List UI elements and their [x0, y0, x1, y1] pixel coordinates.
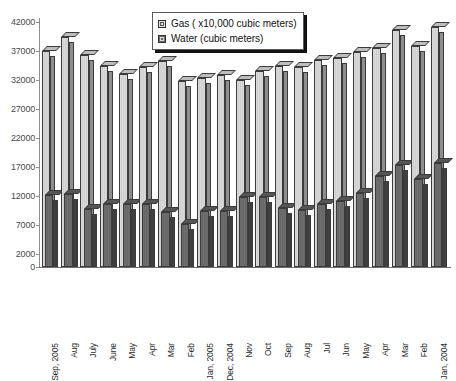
- y-axis-tick: 42000: [11, 17, 40, 27]
- water-bar: [414, 179, 423, 267]
- x-axis-label: Dec, 2004: [225, 343, 235, 381]
- y-axis-tick: 37000: [11, 46, 40, 56]
- bar-front-face: [220, 211, 229, 268]
- bar-front-face: [103, 204, 112, 267]
- bar-front-face: [356, 193, 365, 267]
- water-bar: [375, 176, 384, 267]
- water-bar: [317, 204, 326, 267]
- water-bar: [220, 211, 229, 268]
- water-bar: [336, 201, 345, 267]
- bar-side-face: [384, 181, 389, 267]
- bar-front-face: [395, 165, 404, 267]
- x-axis-label: Mar: [400, 343, 410, 357]
- bar-top-face: [236, 75, 255, 80]
- bar-front-face: [45, 195, 54, 267]
- bar-top-face: [119, 69, 138, 74]
- y-axis-tick-label: 2000: [16, 249, 35, 259]
- bar-top-face: [158, 56, 177, 61]
- bar-side-face: [150, 209, 155, 267]
- chart-legend: Gas ( x10,000 cubic meters) Water (cubic…: [152, 12, 304, 50]
- bar-top-face: [80, 50, 99, 55]
- bar-top-face: [42, 46, 61, 51]
- plot-area: [40, 14, 450, 267]
- bar-top-face: [217, 70, 236, 75]
- y-axis-tick-label: 12000: [11, 191, 35, 201]
- bar-front-face: [84, 209, 93, 267]
- x-axis-label: Feb: [186, 343, 196, 357]
- y-axis-tick-label: 27000: [11, 104, 35, 114]
- y-axis-tick: 12000: [11, 191, 40, 201]
- bar-front-face: [336, 201, 345, 267]
- legend-item-water: Water (cubic meters): [158, 31, 297, 46]
- water-bar: [142, 204, 151, 267]
- legend-swatch-gas-icon: [158, 20, 166, 28]
- bar-side-face: [403, 170, 408, 267]
- y-axis-tick-label: 17000: [11, 162, 35, 172]
- bar-top-face: [197, 73, 216, 78]
- bar-front-face: [298, 210, 307, 267]
- bar-side-face: [267, 202, 272, 267]
- legend-label-water: Water (cubic meters): [171, 33, 263, 44]
- water-bar: [434, 163, 443, 267]
- bar-front-face: [64, 194, 73, 267]
- bar-top-face: [353, 47, 372, 52]
- bar-side-face: [345, 206, 350, 267]
- x-axis-label: Nov: [244, 343, 254, 358]
- x-axis-label: May: [127, 343, 137, 359]
- bar-side-face: [53, 200, 58, 267]
- bar-top-face: [431, 22, 450, 27]
- bar-front-face: [375, 176, 384, 267]
- y-axis-tick: 7000: [16, 220, 40, 230]
- bar-front-face: [123, 204, 132, 267]
- bar-front-face: [181, 224, 190, 267]
- x-axis-label: Sep: [283, 343, 293, 358]
- x-axis-label: Jul: [322, 343, 332, 354]
- x-axis-label: Jan, 2005: [205, 343, 215, 379]
- bar-top-face: [100, 61, 119, 66]
- water-bar: [259, 197, 268, 267]
- bar-top-face: [314, 55, 333, 60]
- bar-top-face: [411, 41, 430, 46]
- bar-side-face: [92, 214, 97, 267]
- x-axis-label: Jun: [341, 343, 351, 356]
- bar-side-face: [131, 209, 136, 267]
- bar-front-face: [161, 212, 170, 267]
- legend-swatch-water-icon: [158, 35, 166, 43]
- bar-top-face: [275, 61, 294, 66]
- x-axis-labels: Sep, 2005AugJulyJuneMayAprMarFebJan, 200…: [0, 271, 456, 347]
- legend-label-gas: Gas ( x10,000 cubic meters): [171, 18, 297, 29]
- y-axis-tick-label: 42000: [11, 17, 35, 27]
- water-bar: [84, 209, 93, 267]
- bar-side-face: [189, 229, 194, 267]
- legend-item-gas: Gas ( x10,000 cubic meters): [158, 16, 297, 31]
- water-bar: [103, 204, 112, 267]
- bar-front-face: [278, 208, 287, 267]
- x-axis-label: Aug: [69, 343, 79, 358]
- water-bar: [123, 204, 132, 267]
- bar-top-face: [372, 43, 391, 48]
- bar-top-face: [255, 66, 274, 71]
- bar-top-face: [294, 62, 313, 67]
- bar-side-face: [442, 168, 447, 267]
- bar-top-face: [434, 158, 453, 163]
- bar-side-face: [73, 199, 78, 267]
- bar-side-face: [306, 215, 311, 267]
- water-bar: [356, 193, 365, 267]
- y-axis-tick-label: 7000: [16, 220, 35, 230]
- bar-top-face: [392, 25, 411, 30]
- y-axis-tick: 17000: [11, 162, 40, 172]
- bar-front-face: [259, 197, 268, 267]
- x-axis-label: Apr: [380, 343, 390, 356]
- bar-side-face: [112, 209, 117, 267]
- x-axis-label: Oct: [263, 343, 273, 356]
- x-axis-baseline: [39, 267, 451, 268]
- x-axis-label: Feb: [419, 343, 429, 357]
- bar-front-face: [434, 163, 443, 267]
- bar-front-face: [239, 197, 248, 267]
- x-axis-label: Aug: [302, 343, 312, 358]
- water-bar: [239, 197, 248, 267]
- water-bar: [395, 165, 404, 267]
- y-axis-tick: 27000: [11, 104, 40, 114]
- y-axis-tick-label: 37000: [11, 46, 35, 56]
- y-axis-tick: 2000: [16, 249, 40, 259]
